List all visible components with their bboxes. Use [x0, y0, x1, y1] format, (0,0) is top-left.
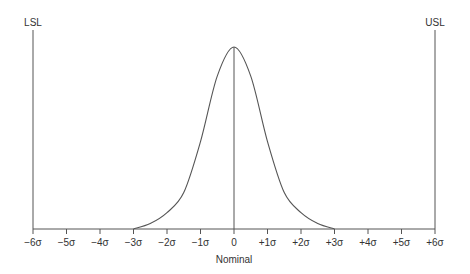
x-tick-label: −6σ	[24, 237, 42, 248]
x-tick-label: +5σ	[393, 237, 411, 248]
label-layer: −6σ−5σ−4σ−3σ−2σ−1σ0+1σ+2σ+3σ+4σ+5σ+6σNom…	[24, 17, 445, 265]
x-tick-label: +4σ	[359, 237, 377, 248]
x-tick-label: +6σ	[426, 237, 444, 248]
x-tick-label: −5σ	[58, 237, 76, 248]
lsl-label: LSL	[24, 17, 42, 28]
x-tick-label: +2σ	[292, 237, 310, 248]
usl-label: USL	[425, 17, 445, 28]
chart-svg: −6σ−5σ−4σ−3σ−2σ−1σ0+1σ+2σ+3σ+4σ+5σ+6σNom…	[0, 0, 470, 274]
axis-layer	[33, 30, 435, 234]
x-tick-label: +1σ	[259, 237, 277, 248]
x-tick-label: −1σ	[192, 237, 210, 248]
x-tick-label: −4σ	[91, 237, 109, 248]
x-tick-label: −2σ	[158, 237, 176, 248]
x-tick-label: −3σ	[125, 237, 143, 248]
x-axis-title: Nominal	[216, 254, 253, 265]
x-tick-label: 0	[231, 237, 237, 248]
x-tick-label: +3σ	[326, 237, 344, 248]
